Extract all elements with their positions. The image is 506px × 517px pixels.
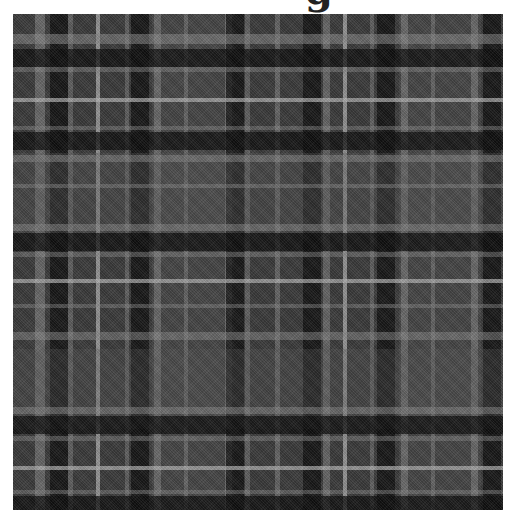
horizontal-stripe: [13, 436, 503, 441]
horizontal-stripe: [13, 416, 503, 434]
horizontal-stripe: [13, 252, 503, 257]
horizontal-stripe: [13, 233, 503, 251]
horizontal-stripe: [13, 132, 503, 150]
horizontal-stripe: [13, 126, 503, 130]
horizontal-stripes: [13, 14, 503, 510]
horizontal-stripe: [13, 98, 503, 102]
horizontal-stripe: [13, 67, 503, 72]
horizontal-stripe: [13, 49, 503, 67]
horizontal-stripe: [13, 496, 503, 510]
cropped-title-glyph: g: [305, 0, 333, 10]
horizontal-stripe: [13, 184, 503, 188]
plaid-fabric-swatch: [13, 14, 503, 510]
horizontal-stripe: [13, 279, 503, 283]
horizontal-stripe: [13, 304, 503, 308]
horizontal-stripe: [13, 153, 503, 233]
horizontal-stripe: [13, 155, 503, 162]
horizontal-stripe: [13, 466, 503, 470]
horizontal-stripe: [13, 490, 503, 494]
horizontal-stripe: [13, 34, 503, 44]
horizontal-stripe: [13, 407, 503, 414]
horizontal-stripe: [13, 332, 503, 340]
horizontal-stripe: [13, 224, 503, 231]
